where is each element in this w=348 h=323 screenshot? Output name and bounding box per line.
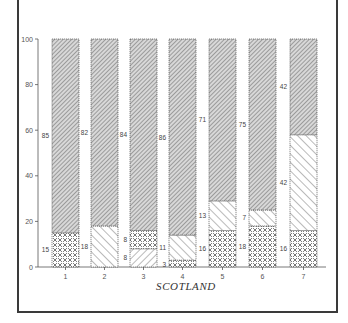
segment-value-label: 18 <box>239 243 247 250</box>
segment-value-label: 84 <box>120 131 128 138</box>
bar-5: 161371 <box>199 39 236 267</box>
x-tick-label: 5 <box>221 273 225 280</box>
bar-segment-dense-gray <box>169 39 196 235</box>
bar-segment-crosshatch <box>290 231 317 267</box>
stacked-bar-chart: 020406080100 158518828884311861613711877… <box>0 0 348 323</box>
segment-value-label: 8 <box>123 254 127 261</box>
y-tick-label: 60 <box>25 127 33 134</box>
bar-segment-back-diagonal <box>130 249 157 267</box>
bar-segment-crosshatch <box>249 226 276 267</box>
segment-value-label: 85 <box>42 132 50 139</box>
segment-value-label: 71 <box>199 116 207 123</box>
bar-4: 31186 <box>159 39 196 268</box>
bar-segment-crosshatch <box>52 233 79 267</box>
y-tick-label: 40 <box>25 172 33 179</box>
bar-segment-dense-gray <box>52 39 79 233</box>
segment-value-label: 16 <box>199 245 207 252</box>
segment-value-label: 3 <box>162 261 166 268</box>
x-tick-label: 1 <box>64 273 68 280</box>
x-tick-label: 7 <box>302 273 306 280</box>
segment-value-label: 18 <box>81 243 89 250</box>
bar-segment-dense-gray <box>249 39 276 210</box>
y-tick-label: 100 <box>21 36 33 43</box>
x-tick-label: 6 <box>261 273 265 280</box>
bar-segment-forward-diagonal <box>169 235 196 260</box>
x-tick-label: 4 <box>181 273 185 280</box>
bar-segment-dense-gray <box>91 39 118 226</box>
bar-segment-dense-gray <box>130 39 157 231</box>
segment-value-label: 13 <box>199 212 207 219</box>
segment-value-label: 15 <box>42 246 50 253</box>
bar-segment-forward-diagonal <box>290 135 317 231</box>
bar-segment-dense-gray <box>290 39 317 135</box>
segment-value-label: 42 <box>280 83 288 90</box>
segment-value-label: 86 <box>159 134 167 141</box>
bar-3: 8884 <box>120 39 157 267</box>
x-axis: 1234567 <box>64 267 306 280</box>
bar-segment-crosshatch <box>130 231 157 249</box>
bars-group: 1585188288843118616137118775164242 <box>42 39 317 268</box>
bar-segment-forward-diagonal <box>209 201 236 231</box>
segment-value-label: 8 <box>123 236 127 243</box>
y-tick-label: 0 <box>29 264 33 271</box>
bar-7: 164242 <box>280 39 317 267</box>
bar-segment-crosshatch <box>169 260 196 267</box>
bar-segment-dense-gray <box>209 39 236 201</box>
segment-value-label: 82 <box>81 129 89 136</box>
bar-segment-crosshatch <box>209 231 236 267</box>
y-tick-label: 80 <box>25 81 33 88</box>
segment-value-label: 75 <box>239 121 247 128</box>
bar-1: 1585 <box>42 39 79 267</box>
segment-value-label: 16 <box>280 245 288 252</box>
bar-segment-forward-diagonal <box>91 226 118 267</box>
segment-value-label: 11 <box>159 244 166 251</box>
bar-2: 1882 <box>81 39 118 267</box>
y-tick-label: 20 <box>25 218 33 225</box>
segment-value-label: 42 <box>280 179 288 186</box>
bar-segment-forward-diagonal <box>249 210 276 226</box>
bar-6: 18775 <box>239 39 276 267</box>
x-axis-label: SCOTLAND <box>156 280 216 292</box>
x-tick-label: 3 <box>142 273 146 280</box>
segment-value-label: 7 <box>242 214 246 221</box>
x-tick-label: 2 <box>103 273 107 280</box>
